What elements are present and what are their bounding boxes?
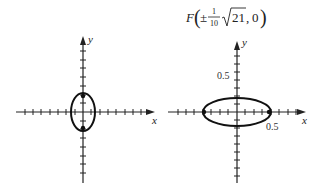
right-graph: x y 0.5 0.5 [168, 36, 307, 183]
comma: , [246, 10, 249, 25]
right-x-tick-label: 0.5 [266, 121, 279, 132]
right-y-arrow-icon [234, 41, 240, 50]
left-y-arrow-icon [80, 36, 86, 45]
formula-y: 0 [252, 10, 259, 25]
right-focus-right [267, 110, 271, 114]
left-x-label: x [151, 114, 157, 126]
right-y-tick-label: 0.5 [217, 70, 230, 81]
focus-formula: F ( ± 1 10 21 , 0 ) [185, 6, 267, 29]
radicand: 21 [232, 10, 245, 25]
figure: F ( ± 1 10 21 , 0 ) [0, 0, 323, 193]
right-paren: ) [260, 6, 267, 29]
formula-pm: ± [200, 10, 207, 25]
frac-denominator: 10 [210, 19, 218, 28]
right-x-label: x [301, 114, 307, 126]
left-graph: x y [16, 33, 157, 183]
left-focus-bottom [81, 126, 85, 130]
left-y-label: y [87, 33, 93, 45]
frac-numerator: 1 [212, 7, 216, 16]
right-focus-left [202, 110, 206, 114]
left-focus-top [81, 94, 85, 98]
right-y-label: y [241, 36, 247, 48]
